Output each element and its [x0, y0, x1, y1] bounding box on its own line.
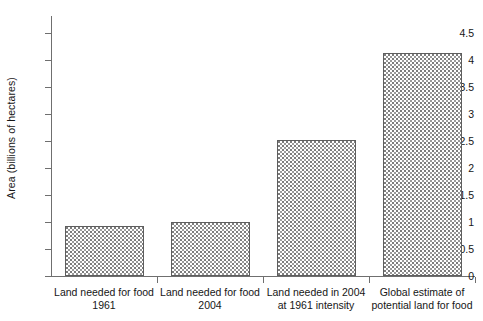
x-axis-category-label-line: Land needed in 2004 [259, 286, 373, 299]
x-axis-category-label-line: Land needed for food [153, 286, 267, 299]
x-axis-category-label-line: Land needed for food [47, 286, 161, 299]
y-axis-tick-label: 4.5 [441, 27, 483, 39]
y-axis-title: Area (billions of hectares) [0, 0, 22, 276]
y-axis-tick [45, 33, 52, 34]
y-axis-tick [45, 114, 52, 115]
y-axis-tick [45, 141, 52, 142]
x-axis-tick [475, 277, 476, 283]
bar [277, 140, 356, 276]
x-axis-tick [157, 277, 158, 283]
y-axis-line [51, 16, 52, 277]
bar [171, 222, 250, 276]
x-axis-category-label: Land needed for food2004 [153, 286, 267, 311]
y-axis-tick [45, 60, 52, 61]
y-axis-tick [45, 249, 52, 250]
y-axis-tick [45, 87, 52, 88]
x-axis-category-label-line: 2004 [153, 299, 267, 312]
y-axis-tick [45, 222, 52, 223]
y-axis-tick [45, 276, 52, 277]
bar [65, 226, 144, 276]
x-axis-tick [369, 277, 370, 283]
x-axis-category-label-line: at 1961 intensity [259, 299, 373, 312]
x-axis-category-label: Land needed for food1961 [47, 286, 161, 311]
x-axis-category-label-line: potential land for food [365, 299, 479, 312]
x-axis-category-label: Global estimate ofpotential land for foo… [365, 286, 479, 311]
y-axis-tick [45, 195, 52, 196]
x-axis-category-label-line: 1961 [47, 299, 161, 312]
x-axis-category-label: Land needed in 2004at 1961 intensity [259, 286, 373, 311]
x-axis-category-label-line: Global estimate of [365, 286, 479, 299]
x-axis-tick [263, 277, 264, 283]
y-axis-title-label: Area (billions of hectares) [5, 77, 17, 199]
bar [383, 53, 462, 276]
bar-chart: Area (billions of hectares) 00.511.522.5… [0, 0, 483, 321]
y-axis-tick [45, 168, 52, 169]
